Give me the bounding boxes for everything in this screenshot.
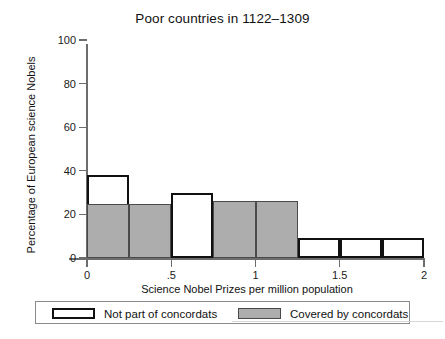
y-tick-label-80: 80 xyxy=(64,78,76,90)
legend-swatch-covered-icon xyxy=(238,308,281,319)
y-tick-40 xyxy=(79,170,87,171)
bar-not-part-7 xyxy=(382,238,424,258)
y-axis-title: Percentage of European science Nobels xyxy=(25,40,37,270)
bar-not-part-6 xyxy=(340,238,382,258)
plot-area xyxy=(87,40,424,258)
scan-artifact-line xyxy=(232,321,443,322)
y-tick-label-100: 100 xyxy=(58,34,76,46)
legend-label-covered: Covered by concordats xyxy=(290,308,408,320)
bar-not-part-5 xyxy=(298,238,340,258)
chart-figure: Poor countries in 1122–1309 020406080100… xyxy=(0,0,445,339)
chart-title: Poor countries in 1122–1309 xyxy=(0,11,445,26)
x-tick-2 xyxy=(423,259,424,267)
y-tick-20 xyxy=(79,214,87,215)
x-tick-0 xyxy=(86,259,87,267)
legend-swatch-not-part-icon xyxy=(52,308,95,319)
y-tick-label-20: 20 xyxy=(64,208,76,220)
bar-not-part-2 xyxy=(171,193,213,258)
x-tick-label-1: 1 xyxy=(252,269,258,281)
y-tick-80 xyxy=(79,83,87,84)
y-tick-100 xyxy=(79,39,87,40)
legend-entry-not-part: Not part of concordats xyxy=(52,302,217,325)
y-tick-label-0: 0 xyxy=(70,252,76,264)
x-tick-label-.5: .5 xyxy=(167,269,176,281)
x-tick-1.5 xyxy=(339,259,340,267)
bar-covered-1 xyxy=(129,204,171,259)
bar-covered-0 xyxy=(87,204,129,259)
x-axis-title: Science Nobel Prizes per million populat… xyxy=(69,283,425,295)
y-tick-60 xyxy=(79,127,87,128)
x-tick-1 xyxy=(255,259,256,267)
x-tick-label-1.5: 1.5 xyxy=(332,269,347,281)
bar-covered-4 xyxy=(256,201,298,258)
y-tick-label-40: 40 xyxy=(64,165,76,177)
x-tick-label-0: 0 xyxy=(84,269,90,281)
x-tick-.5 xyxy=(171,259,172,267)
x-tick-label-2: 2 xyxy=(421,269,427,281)
y-tick-label-60: 60 xyxy=(64,121,76,133)
legend-label-not-part: Not part of concordats xyxy=(104,308,217,320)
bar-covered-3 xyxy=(213,201,255,258)
x-axis-line xyxy=(69,258,425,260)
